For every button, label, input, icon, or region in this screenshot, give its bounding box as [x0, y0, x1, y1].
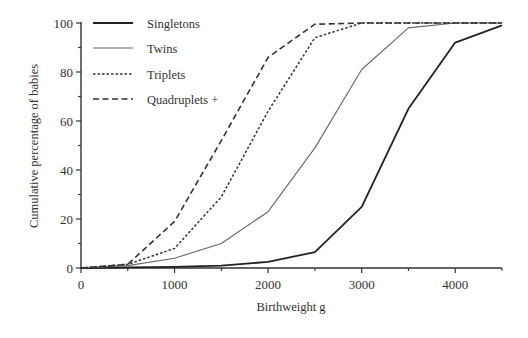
axes: 02040608010001000200030004000 — [54, 16, 503, 293]
y-tick-label: 20 — [60, 212, 73, 227]
legend-label: Triplets — [147, 68, 186, 82]
x-tick-label: 0 — [78, 277, 85, 292]
y-tick-label: 80 — [60, 65, 73, 80]
legend: SingletonsTwinsTripletsQuadruplets + — [93, 17, 218, 107]
y-tick-label: 40 — [60, 163, 73, 178]
data-lines — [81, 23, 502, 268]
legend-label: Quadruplets + — [147, 93, 218, 107]
series-line-triplets — [81, 23, 502, 268]
x-axis-label: Birthweight g — [256, 300, 326, 314]
cumulative-birthweight-chart: 02040608010001000200030004000 Singletons… — [0, 0, 528, 338]
y-tick-label: 100 — [54, 16, 74, 31]
y-tick-label: 60 — [60, 114, 73, 129]
x-tick-label: 2000 — [255, 277, 281, 292]
x-tick-label: 1000 — [162, 277, 188, 292]
x-tick-label: 4000 — [442, 277, 468, 292]
legend-label: Twins — [147, 42, 178, 56]
x-tick-label: 3000 — [349, 277, 375, 292]
series-line-twins — [81, 23, 502, 268]
y-tick-label: 0 — [67, 261, 74, 276]
y-axis-label: Cumulative percentage of babies — [27, 64, 41, 228]
legend-label: Singletons — [147, 17, 200, 31]
series-line-singletons — [81, 25, 502, 268]
series-line-quadruplets — [81, 23, 502, 268]
